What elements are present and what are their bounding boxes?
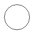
canvas-root: Circle outline glyph	[0, 0, 35, 49]
blank-area-below	[0, 33, 35, 49]
